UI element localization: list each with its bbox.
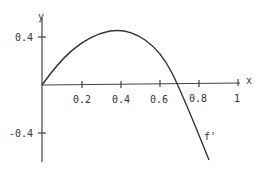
- x-tick-label: 1: [234, 93, 240, 104]
- x-axis: [42, 83, 240, 85]
- chart: 0.2 0.4 0.6 0.8 1 0.4 -0.4 y x f': [0, 0, 266, 169]
- y-axis-label: y: [38, 11, 44, 22]
- x-axis-label: x: [246, 75, 252, 86]
- x-tick-label: 0.8: [189, 93, 207, 104]
- curve-label: f': [204, 131, 216, 142]
- x-tick-label: 0.6: [150, 94, 168, 105]
- x-tick-label: 0.2: [73, 94, 91, 105]
- x-tick-label: 0.4: [112, 94, 130, 105]
- y-tick-label-pos: 0.4: [15, 32, 33, 43]
- y-tick-label-neg: -0.4: [9, 128, 33, 139]
